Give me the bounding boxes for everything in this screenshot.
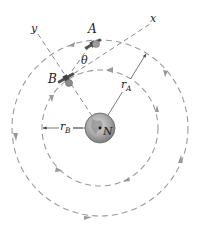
- svg-text:A: A: [125, 84, 132, 93]
- orbit-diagram: N A B x y θ r A r B: [0, 0, 197, 230]
- y-axis-label: y: [30, 22, 38, 35]
- svg-text:B: B: [64, 126, 71, 135]
- satellite-a-label: A: [87, 22, 97, 36]
- radius-a-label: r A: [119, 78, 133, 93]
- earth-center-dot: [99, 127, 102, 130]
- theta-label: θ: [81, 54, 88, 67]
- satellite-b-label: B: [47, 72, 57, 86]
- earth-pole-label: N: [102, 125, 113, 138]
- satellite-a-body: [92, 40, 99, 47]
- radius-b-label: r B: [59, 120, 73, 135]
- satellite-b-body: [65, 79, 72, 86]
- x-axis-label: x: [150, 12, 157, 25]
